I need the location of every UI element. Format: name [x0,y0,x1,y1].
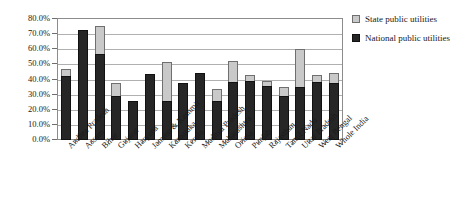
x-tick-mark [342,140,343,144]
legend-swatch-national-icon [352,34,360,42]
x-axis: Andhra PradeshAssamBiharGujaratHaryanaJa… [0,144,471,212]
bar-national-public-utilities [61,76,71,140]
y-tick-label: 80.0% [28,14,50,22]
x-tick-mark [242,140,243,144]
chart-legend: State public utilitiesNational public ut… [352,14,450,52]
y-tick-label: 0.0% [32,135,50,143]
x-tick-mark [275,140,276,144]
y-tick-label: 20.0% [28,105,50,113]
bar-group [111,19,121,140]
legend-label: National public utilities [365,33,450,43]
x-tick-mark [258,140,259,144]
y-tick-label: 10.0% [28,120,50,128]
y-tick-label: 30.0% [28,90,50,98]
x-tick-mark [158,140,159,144]
bar-chart: 0.0%10.0%20.0%30.0%40.0%50.0%60.0%70.0%8… [0,0,471,212]
bar-group [195,19,205,140]
bar-group [262,19,272,140]
x-tick-mark [325,140,326,144]
legend-item: National public utilities [352,33,450,43]
y-tick-label: 50.0% [28,59,50,67]
x-tick-mark [75,140,76,144]
y-axis: 0.0%10.0%20.0%30.0%40.0%50.0%60.0%70.0%8… [0,18,54,140]
x-tick-mark [309,140,310,144]
x-tick-mark [91,140,92,144]
bar-group [145,19,155,140]
x-tick-mark [225,140,226,144]
x-tick-mark [108,140,109,144]
x-tick-mark [292,140,293,144]
y-tick-label: 60.0% [28,44,50,52]
x-tick-mark [175,140,176,144]
legend-swatch-state-icon [352,15,360,23]
legend-label: State public utilities [365,14,437,24]
x-tick-mark [142,140,143,144]
bar-group [61,19,71,140]
legend-item: State public utilities [352,14,450,24]
x-tick-mark [192,140,193,144]
x-tick-mark [208,140,209,144]
x-tick-mark [125,140,126,144]
y-tick-label: 40.0% [28,75,50,83]
y-tick-label: 70.0% [28,29,50,37]
bar-group [128,19,138,140]
